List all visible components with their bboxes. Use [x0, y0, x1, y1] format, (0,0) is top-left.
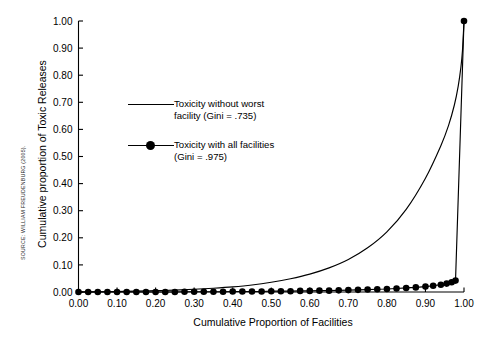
series-data-point: [422, 283, 429, 290]
y-tick-label: 0.30: [53, 205, 73, 216]
legend-line-sample-icon: [128, 93, 174, 119]
series-data-point: [326, 287, 333, 294]
series-data-point: [152, 289, 159, 296]
x-tick-label: 0.10: [107, 298, 127, 309]
x-tick-label: 0.80: [377, 298, 397, 309]
legend-label-line2: (Gini = .975): [174, 151, 274, 163]
series-data-point: [258, 288, 265, 295]
y-tick-label: 0.40: [53, 178, 73, 189]
series-data-point: [143, 289, 150, 296]
series-data-point: [393, 285, 400, 292]
series-data-point: [172, 289, 179, 296]
series-data-point: [123, 289, 130, 296]
series-data-point: [335, 287, 342, 294]
x-tick-label: 0.20: [146, 298, 166, 309]
series-data-point: [316, 287, 323, 294]
x-tick-label: 0.70: [339, 298, 359, 309]
x-tick-label: 0.30: [184, 298, 204, 309]
y-tick-label: 0.80: [53, 70, 73, 81]
series-data-point: [278, 288, 285, 295]
y-tick-label: 0.70: [53, 97, 73, 108]
series-data-point: [220, 288, 227, 295]
x-tick-label: 0.60: [300, 298, 320, 309]
legend-label-line1: Toxicity with all facilities: [174, 139, 274, 150]
y-tick-label: 0.10: [53, 260, 73, 271]
series-data-point: [297, 288, 304, 295]
x-tick-label: 0.90: [416, 298, 436, 309]
series-data-point: [307, 288, 314, 295]
series-data-point: [384, 286, 391, 293]
legend: Toxicity without worst facility (Gini = …: [128, 93, 328, 175]
legend-label-line1: Toxicity without worst: [174, 98, 264, 109]
legend-circle-marker-icon: [146, 141, 155, 150]
series-data-point: [191, 288, 198, 295]
series-data-point: [181, 288, 188, 295]
series-data-point: [461, 18, 468, 25]
legend-label-without-worst: Toxicity without worst facility (Gini = …: [174, 93, 264, 121]
y-tick-label: 0.50: [53, 151, 73, 162]
series-data-point: [345, 287, 352, 294]
legend-label-all-facilities: Toxicity with all facilities (Gini = .97…: [174, 134, 274, 162]
y-tick-label: 0.20: [53, 232, 73, 243]
series-data-point: [452, 277, 459, 284]
x-tick-label: 0.50: [262, 298, 282, 309]
series-data-point: [104, 289, 111, 296]
x-tick-label: 1.00: [454, 298, 474, 309]
y-tick-label: 1.00: [53, 16, 73, 27]
y-tick-label: 0.90: [53, 43, 73, 54]
series-data-point: [162, 289, 169, 296]
legend-entry-all-facilities: Toxicity with all facilities (Gini = .97…: [128, 134, 328, 162]
y-tick-label: 0.60: [53, 124, 73, 135]
legend-entry-without-worst: Toxicity without worst facility (Gini = …: [128, 93, 328, 121]
series-data-point: [287, 288, 294, 295]
series-data-point: [249, 288, 256, 295]
series-data-point: [85, 289, 92, 296]
series-data-point: [75, 289, 82, 296]
series-data-point: [364, 286, 371, 293]
series-data-point: [430, 282, 437, 289]
lorenz-curve-figure: SOURCE: WILLIAM FREUDENBURG (2005). Cumu…: [0, 0, 481, 339]
series-data-point: [133, 289, 140, 296]
series-data-point: [438, 281, 445, 288]
series-data-point: [114, 289, 121, 296]
series-data-point: [229, 288, 236, 295]
series-data-point: [268, 288, 275, 295]
series-data-point: [239, 288, 246, 295]
legend-label-line2: facility (Gini = .735): [174, 110, 264, 122]
series-data-point: [374, 286, 381, 293]
y-tick-label: 0.00: [53, 287, 73, 298]
x-tick-label: 0.40: [223, 298, 243, 309]
series-data-point: [355, 287, 362, 294]
x-tick-label: 0.00: [69, 298, 89, 309]
legend-line-marker-sample-icon: [128, 134, 174, 160]
series-data-point: [413, 284, 420, 291]
series-data-point: [200, 288, 207, 295]
y-axis: 0.000.100.200.300.400.500.600.700.800.90…: [53, 16, 83, 298]
series-data-point: [403, 285, 410, 292]
series-data-point: [94, 289, 101, 296]
series-data-point: [210, 288, 217, 295]
